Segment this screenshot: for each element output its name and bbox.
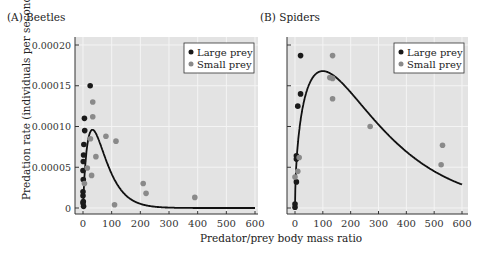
y-tick-label: 0.00005	[32, 162, 71, 173]
x-tick-label: 100	[102, 218, 121, 229]
x-tick-label: 0	[292, 218, 298, 229]
x-tick-label: 400	[188, 218, 207, 229]
x-tick-label: 200	[131, 218, 150, 229]
small-prey-point	[192, 195, 198, 201]
small-prey-point	[330, 76, 336, 82]
large-prey-point	[87, 83, 93, 89]
large-prey-point	[81, 204, 87, 210]
small-prey-point	[90, 99, 96, 105]
y-tick-label: 0.00010	[32, 121, 71, 132]
chart-canvas: 010020030040050060000.000050.000100.0001…	[0, 0, 488, 253]
x-tick-label: 300	[369, 218, 388, 229]
small-prey-point	[82, 181, 88, 187]
small-prey-point	[88, 136, 94, 142]
small-prey-point	[113, 138, 119, 144]
small-prey-point	[330, 96, 336, 102]
small-prey-point	[93, 154, 99, 160]
legend-label: Small prey	[197, 59, 252, 70]
small-prey-point	[440, 142, 446, 148]
large-prey-point	[292, 204, 298, 210]
large-prey-point	[82, 128, 88, 134]
panel-b-plot: 0100200300400500600Large preySmall prey	[287, 37, 472, 229]
legend-label: Large prey	[407, 47, 463, 58]
small-prey-point	[90, 114, 96, 120]
small-prey-point	[438, 162, 444, 168]
x-tick-label: 600	[245, 218, 264, 229]
large-prey-point	[294, 179, 300, 185]
large-prey-point	[298, 53, 304, 59]
panel-a-plot: 010020030040050060000.000050.000100.0001…	[32, 37, 265, 229]
large-prey-point	[82, 116, 88, 122]
small-prey-point	[367, 124, 373, 130]
legend-label: Large prey	[197, 47, 253, 58]
x-tick-label: 400	[397, 218, 416, 229]
x-tick-label: 500	[425, 218, 444, 229]
small-prey-point	[296, 155, 302, 161]
large-prey-point	[80, 159, 86, 165]
x-tick-label: 100	[313, 218, 332, 229]
small-prey-point	[140, 181, 146, 187]
large-prey-point	[81, 142, 87, 148]
x-tick-label: 0	[80, 218, 86, 229]
small-prey-point	[89, 173, 95, 179]
small-prey-point	[330, 53, 336, 59]
small-prey-point	[143, 191, 149, 197]
small-prey-point	[112, 202, 118, 208]
large-prey-point	[295, 103, 301, 109]
small-prey-point	[85, 165, 91, 171]
large-prey-point	[80, 199, 86, 205]
large-prey-point	[81, 152, 87, 158]
small-prey-point	[103, 133, 109, 139]
y-axis-label: Predation rate (individuals per second)	[20, 0, 32, 200]
y-tick-label: 0.00020	[32, 40, 71, 51]
legend-label: Small prey	[407, 59, 462, 70]
x-tick-label: 600	[452, 218, 471, 229]
large-prey-point	[80, 193, 86, 199]
small-prey-point	[292, 174, 298, 180]
small-prey-point	[295, 169, 301, 175]
x-tick-label: 200	[341, 218, 360, 229]
y-tick-label: 0	[65, 203, 71, 214]
x-tick-label: 300	[159, 218, 178, 229]
x-axis-label: Predator/prey body mass ratio	[200, 232, 362, 244]
large-prey-point	[298, 91, 304, 97]
y-tick-label: 0.00015	[32, 80, 71, 91]
x-tick-label: 500	[217, 218, 236, 229]
